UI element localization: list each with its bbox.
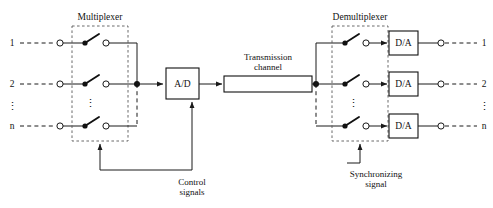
mux-switch-1-contact — [103, 40, 109, 46]
mux-switch-n[interactable] — [82, 117, 109, 129]
input-ellipsis: ⋮ — [7, 100, 18, 112]
output-terminal-n — [438, 123, 444, 129]
demux-switch-n[interactable] — [342, 117, 369, 129]
mux-switch-2[interactable] — [82, 75, 109, 87]
input-label-1: 1 — [10, 38, 15, 48]
input-label-n: n — [10, 121, 15, 131]
demultiplexer-title: Demultiplexer — [333, 12, 389, 22]
multiplexer-title: Multiplexer — [78, 12, 124, 22]
control-signals-label-line1: Control — [178, 177, 206, 187]
mux-switch-n-blade — [85, 117, 99, 126]
tdm-block-diagram: 1 2 ⋮ n Multiplexer ⋮ — [0, 0, 493, 208]
control-signals-label-line2: signals — [179, 187, 204, 197]
mux-switch-2-contact — [103, 81, 109, 87]
output-label-1: 1 — [482, 38, 487, 48]
sync-signal-label-line1: Synchronizing — [350, 169, 403, 179]
dac-block-n[interactable]: D/A — [389, 114, 418, 138]
diagram-canvas: 1 2 ⋮ n Multiplexer ⋮ — [0, 0, 493, 208]
output-terminal-1 — [438, 40, 444, 46]
mux-ellipsis: ⋮ — [85, 97, 96, 109]
demux-switch-n-contact — [363, 123, 369, 129]
mux-switch-1[interactable] — [82, 34, 109, 46]
output-ellipsis: ⋮ — [479, 100, 490, 112]
transmission-channel-box — [224, 76, 312, 92]
mux-switch-1-blade — [85, 34, 99, 43]
input-terminal-1 — [57, 40, 63, 46]
output-label-n: n — [482, 121, 487, 131]
mux-switch-2-blade — [85, 75, 99, 84]
demux-switch-1-blade — [345, 34, 359, 43]
dac-block-1[interactable]: D/A — [389, 31, 418, 55]
dac-label-n: D/A — [395, 121, 412, 131]
transmission-channel-label-line2: channel — [254, 62, 282, 72]
demux-switch-2[interactable] — [342, 75, 369, 87]
sync-signal-label-line2: signal — [365, 179, 387, 189]
mux-switch-n-contact — [103, 123, 109, 129]
transmission-channel-label-line1: Transmission — [244, 52, 293, 62]
adc-block[interactable]: A/D — [166, 68, 199, 99]
input-terminal-2 — [57, 81, 63, 87]
input-label-2: 2 — [10, 79, 15, 89]
adc-label: A/D — [174, 79, 191, 89]
dac-block-2[interactable]: D/A — [389, 72, 418, 96]
transmission-channel-block[interactable] — [224, 76, 312, 92]
dac-label-2: D/A — [395, 79, 412, 89]
demux-switch-1-contact — [363, 40, 369, 46]
demux-switch-1[interactable] — [342, 34, 369, 46]
dac-label-1: D/A — [395, 38, 412, 48]
demux-ellipsis: ⋮ — [348, 97, 359, 109]
demux-switch-2-contact — [363, 81, 369, 87]
demux-switch-n-blade — [345, 117, 359, 126]
demux-switch-2-blade — [345, 75, 359, 84]
input-terminal-n — [57, 123, 63, 129]
sync-to-demux-wire — [347, 144, 360, 163]
output-terminal-2 — [438, 81, 444, 87]
output-label-2: 2 — [482, 79, 487, 89]
